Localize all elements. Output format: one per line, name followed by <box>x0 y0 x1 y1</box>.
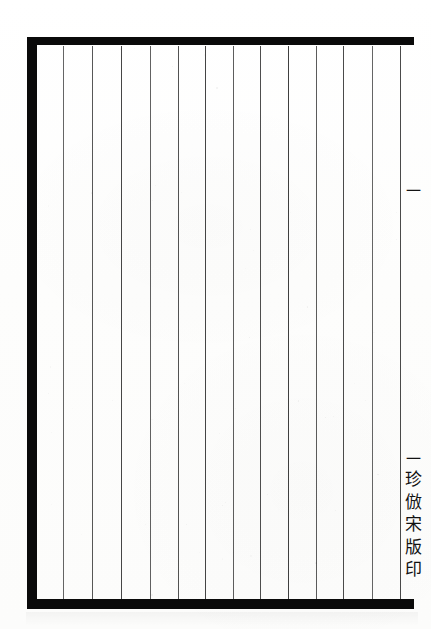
column-rule <box>372 46 373 599</box>
ink-speckle <box>204 54 205 55</box>
ink-speckle <box>225 502 226 503</box>
ink-speckle <box>48 393 49 394</box>
ink-speckle <box>152 200 153 201</box>
ink-speckle <box>216 87 218 89</box>
column-rule <box>178 46 179 599</box>
frame-left-rule <box>27 37 37 609</box>
column-rule <box>150 46 151 599</box>
banxin-glyph-6: 印 <box>402 558 424 581</box>
ink-speckle <box>396 239 397 240</box>
ink-speckle <box>235 408 236 409</box>
ink-speckle <box>72 408 73 409</box>
ink-speckle <box>50 366 52 368</box>
ink-speckle <box>325 417 326 418</box>
ink-speckle <box>250 229 251 230</box>
ink-speckle <box>151 594 153 596</box>
column-rule <box>92 46 93 599</box>
ink-speckle <box>307 306 308 307</box>
ink-speckle <box>181 192 182 193</box>
ink-speckle <box>124 597 126 599</box>
ink-speckle <box>267 494 268 495</box>
frame-bottom-rule <box>27 599 414 609</box>
ink-speckle <box>290 212 292 214</box>
banxin-glyph-3: 倣 <box>402 491 424 514</box>
column-rule-group <box>0 0 431 629</box>
ink-speckle <box>253 250 254 251</box>
ink-speckle <box>245 268 246 269</box>
ink-speckle <box>298 400 299 401</box>
ink-speckle <box>373 332 374 333</box>
ink-speckle <box>250 555 252 557</box>
ink-speckle <box>51 504 52 505</box>
banxin-glyph-4: 宋 <box>402 513 424 536</box>
ink-speckle <box>120 48 121 49</box>
ink-speckle <box>123 232 124 233</box>
ink-speckle <box>134 48 135 49</box>
banxin-glyph-1: 一 <box>402 450 424 468</box>
column-rule <box>288 46 289 599</box>
ink-speckle <box>184 383 185 384</box>
scan-edge-shadow <box>26 612 418 626</box>
ink-speckle <box>365 400 366 401</box>
ink-speckle <box>396 212 397 213</box>
column-rule <box>316 46 317 599</box>
column-rule <box>343 46 344 599</box>
paper-texture <box>0 0 431 629</box>
ink-speckle <box>66 393 67 394</box>
ink-speckle <box>354 383 355 384</box>
column-rule <box>63 46 64 599</box>
ink-speckle <box>333 416 334 417</box>
banxin-glyph-5: 版 <box>402 536 424 559</box>
frame-top-rule <box>27 37 414 45</box>
ink-speckle <box>199 552 201 554</box>
ink-speckle <box>377 474 378 475</box>
column-rule <box>233 46 234 599</box>
ink-speckle <box>219 433 220 434</box>
ink-speckle <box>335 510 336 511</box>
ink-speckle <box>172 66 173 67</box>
ink-speckle <box>91 192 92 193</box>
ink-speckle <box>155 185 156 186</box>
ink-speckle <box>249 337 250 338</box>
ink-speckle <box>81 534 82 535</box>
ink-speckle <box>222 558 224 560</box>
banxin-centre-column: 一 一 珍 倣 宋 版 印 <box>401 46 427 599</box>
ink-speckle <box>48 205 50 207</box>
ink-speckle <box>151 419 152 420</box>
ink-speckle <box>145 524 146 525</box>
ink-speckle <box>112 400 113 401</box>
ink-speckle <box>315 562 317 564</box>
ink-speckle <box>233 552 234 553</box>
column-rule <box>260 46 261 599</box>
banxin-imprint-block: 一 珍 倣 宋 版 印 <box>401 450 425 581</box>
banxin-volume-mark: 一 <box>402 184 424 199</box>
scanned-page: 一 一 珍 倣 宋 版 印 <box>0 0 431 629</box>
ink-speckle <box>222 505 223 506</box>
ink-speckle <box>51 432 52 433</box>
ink-speckle <box>186 524 187 525</box>
column-rule <box>121 46 122 599</box>
banxin-glyph-2: 珍 <box>402 468 424 491</box>
column-rule <box>205 46 206 599</box>
